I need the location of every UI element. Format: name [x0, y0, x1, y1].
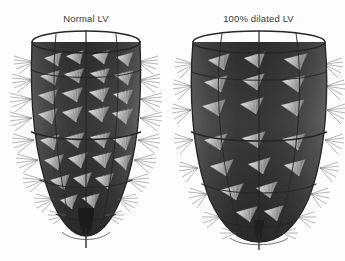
- normal-lv-model: [0, 28, 172, 256]
- dilated-lv-model: [172, 28, 345, 256]
- figure-caption-area: [0, 253, 345, 261]
- panel-dilated-lv: 100% dilated LV: [172, 0, 345, 261]
- panel-normal-lv: Normal LV: [0, 0, 172, 261]
- lv-fiber-architecture-figure: Normal LV: [0, 0, 345, 261]
- panel-label-normal-lv: Normal LV: [0, 13, 172, 24]
- panel-label-dilated-lv: 100% dilated LV: [172, 13, 345, 24]
